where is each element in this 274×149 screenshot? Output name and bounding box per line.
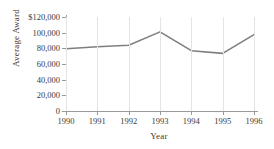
y-axis-tick [62, 48, 66, 49]
x-axis-title: Year [64, 131, 254, 141]
plot-area: 020,00040,00060,00080,000100,000$120,000 [66, 17, 254, 111]
x-axis-tick-label: 1996 [246, 116, 263, 126]
x-axis-tick [254, 111, 255, 115]
y-axis-tick [62, 64, 66, 65]
x-axis-tick-label: 1994 [183, 116, 200, 126]
gridline-vertical [129, 17, 130, 111]
y-axis-tick-label: 80,000 [37, 43, 60, 53]
y-axis-tick [62, 80, 66, 81]
y-axis-tick [62, 17, 66, 18]
y-axis-tick-label: 20,000 [37, 90, 60, 100]
x-axis-tick-label: 1991 [89, 116, 106, 126]
gridline-vertical [160, 17, 161, 111]
x-axis-tick-label: 1993 [152, 116, 169, 126]
x-axis-tick [129, 111, 130, 115]
x-axis-tick [160, 111, 161, 115]
y-axis-tick-label: 100,000 [32, 28, 60, 38]
y-axis-tick-label: 60,000 [37, 59, 60, 69]
x-axis-tick-label: 1990 [58, 116, 75, 126]
y-axis-title: Average Award [10, 0, 22, 93]
gridline-vertical [254, 17, 255, 111]
chart-figure: Average Award 020,00040,00060,00080,0001… [0, 0, 274, 149]
y-axis-tick-label: 0 [56, 106, 60, 116]
y-axis-tick-label: 40,000 [37, 75, 60, 85]
x-axis-line [64, 111, 258, 112]
y-axis-tick-label: $120,000 [28, 12, 60, 22]
gridline-vertical [66, 17, 67, 111]
gridline-vertical [223, 17, 224, 111]
x-axis-tick [191, 111, 192, 115]
y-axis-tick [62, 33, 66, 34]
gridline-vertical [191, 17, 192, 111]
x-axis-tick [97, 111, 98, 115]
y-axis-tick [62, 95, 66, 96]
x-axis-tick-label: 1995 [214, 116, 231, 126]
x-axis-tick [66, 111, 67, 115]
x-axis-tick [223, 111, 224, 115]
gridline-vertical [97, 17, 98, 111]
x-axis-tick-label: 1992 [120, 116, 137, 126]
